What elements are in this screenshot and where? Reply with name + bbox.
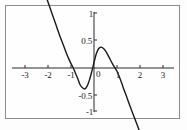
y-tick-label-pos05: 0.5 [81, 37, 92, 46]
function-curve [46, 0, 150, 130]
y-tick-label-neg1: -1 [86, 108, 93, 117]
y-tick-label-neg05: -0.5 [79, 92, 92, 101]
x-tick-label-pos2: 2 [138, 71, 142, 80]
plot-screenshot: -3 -2 -1 1 2 3 0 1 0.5 -0.5 -1 [0, 0, 187, 130]
x-tick-label-neg3: -3 [21, 71, 28, 80]
axes-group [12, 12, 174, 112]
plot-canvas [0, 0, 187, 130]
x-tick-label-neg1: -1 [67, 71, 74, 80]
x-tick-label-neg2: -2 [44, 71, 51, 80]
x-tick-label-pos1: 1 [116, 71, 120, 80]
y-tick-label-pos1: 1 [89, 10, 93, 19]
x-tick-label-pos3: 3 [161, 71, 165, 80]
origin-label: 0 [96, 70, 100, 79]
